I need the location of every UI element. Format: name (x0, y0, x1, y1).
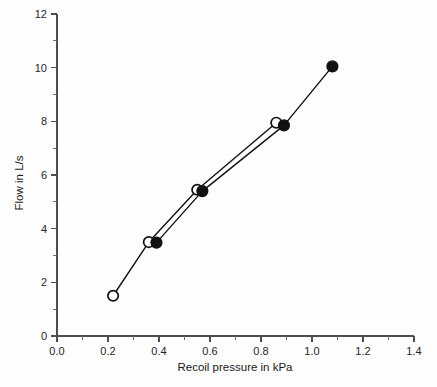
data-point-filled-circle (327, 61, 338, 72)
x-tick-label: 1.4 (406, 345, 421, 357)
y-axis-title: Flow in L/s (13, 155, 25, 210)
x-tick-label: 0.0 (49, 345, 64, 357)
y-tick-label: 6 (41, 169, 47, 181)
chart-plot-area: 0.00.20.40.60.81.01.21.4 024681012 Recoi… (0, 0, 437, 387)
data-point-filled-circle (279, 120, 290, 131)
series-line-filled-circles (156, 66, 332, 242)
x-tick-label: 0.4 (151, 345, 166, 357)
x-tick-label: 0.6 (202, 345, 217, 357)
data-point-open-circle (108, 291, 118, 301)
series-line-open-circles (113, 123, 276, 296)
y-tick-label: 12 (35, 8, 47, 20)
y-tick-label: 2 (41, 276, 47, 288)
y-tick-label: 4 (41, 223, 47, 235)
y-tick-label: 10 (35, 62, 47, 74)
x-tick-label: 0.2 (100, 345, 115, 357)
chart-figure: 0.00.20.40.60.81.01.21.4 024681012 Recoi… (0, 0, 437, 387)
data-point-filled-circle (197, 186, 208, 197)
x-tick-label: 1.0 (304, 345, 319, 357)
y-tick-label: 8 (41, 115, 47, 127)
y-axis-ticks: 024681012 (35, 8, 57, 342)
x-tick-label: 1.2 (355, 345, 370, 357)
y-tick-label: 0 (41, 330, 47, 342)
x-tick-label: 0.8 (253, 345, 268, 357)
series-lines (113, 66, 332, 295)
x-axis-title: Recoil pressure in kPa (177, 361, 293, 373)
series-markers (108, 61, 338, 301)
x-axis-ticks: 0.00.20.40.60.81.01.21.4 (49, 336, 421, 357)
data-point-filled-circle (151, 237, 162, 248)
